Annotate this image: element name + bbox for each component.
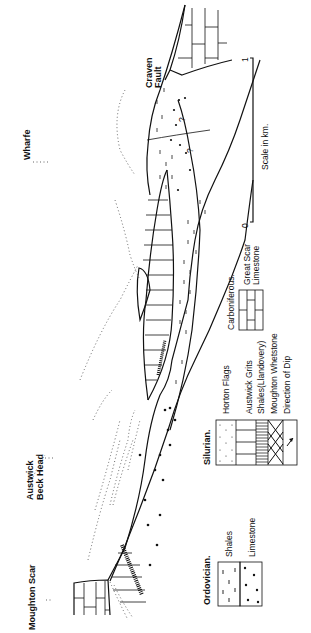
- scale-bar: 0 1 Scale in km.: [240, 57, 270, 228]
- legend-limestone-label: Limestone: [247, 518, 257, 557]
- legend-silurian: Silurian. Horton Flags: [202, 333, 297, 465]
- austwick-grits-lens: [143, 170, 174, 400]
- legend-dip-arrow-icon: [287, 438, 293, 446]
- legend-limestone-swatch: [240, 562, 262, 606]
- legend-shales-label: Shales: [224, 531, 234, 557]
- legend-horton-flags-label: Horton Flags: [221, 365, 231, 414]
- scale-start-label: 0: [240, 223, 250, 228]
- legend-silurian-box: [216, 420, 297, 465]
- place-label-craven-fault-line2: Fault: [153, 66, 163, 88]
- place-label-austwick-beck-head-line1: Austwick: [25, 459, 35, 500]
- legend-horton-flags-swatch: [219, 424, 232, 461]
- place-label-moughton-scar-line1: Moughton Scar: [27, 564, 37, 630]
- legend-moughton-whetstone-label: Moughton Whetstone: [269, 333, 279, 414]
- legend-ordovician-title: Ordovician.: [202, 555, 212, 605]
- inner-boundary: [147, 100, 210, 430]
- place-label-wharfe: Wharfe: [22, 129, 32, 160]
- unknown-marker-2: ?: [185, 148, 195, 153]
- legend-carboniferous: Carboniferous. Great Scar Limestone: [226, 244, 263, 330]
- legend-moughton-whetstone-swatch: [268, 420, 283, 464]
- place-label-austwick-beck-head-line2: Beck Head: [35, 454, 45, 500]
- legend-direction-of-dip-label: Direction of Dip: [282, 356, 292, 414]
- legend-carboniferous-title: Carboniferous.: [226, 274, 236, 330]
- legend-great-scar-label-line2: Limestone: [251, 246, 261, 285]
- ordovician-shales-dashes: [157, 88, 205, 384]
- dotted-strata-base: [110, 582, 133, 620]
- scale-caption: Scale in km.: [260, 124, 270, 170]
- limestone-block-moughton: [74, 580, 110, 615]
- scale-end-label: 1: [240, 57, 250, 62]
- ground-surface: [108, 60, 260, 581]
- legend-shales-llandovery-label: Shales(Llandovery): [256, 341, 266, 414]
- legend-silurian-title: Silurian.: [202, 429, 212, 465]
- legend-shales-llandovery-swatch: [256, 423, 268, 462]
- legend-austwick-grits-swatch: [236, 430, 256, 454]
- legend-ordovician: Ordovician. Shales Limestone: [202, 518, 262, 606]
- cross-section-diagram: ? ? Moughton Scar Austwick Beck Head Wha…: [0, 0, 311, 633]
- legend-austwick-grits-label: Austwick Grits: [244, 360, 254, 414]
- unknown-marker-1: ?: [177, 117, 187, 122]
